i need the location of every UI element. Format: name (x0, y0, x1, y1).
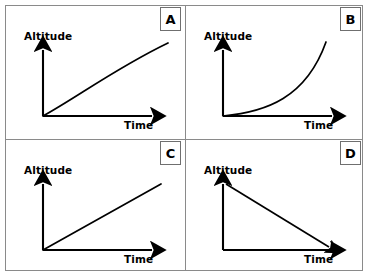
panel-c: Altitude Time C (6, 140, 186, 273)
panel-b: Altitude Time B (186, 6, 366, 139)
panel-c-data-line (43, 184, 161, 250)
panel-d-label: D (345, 147, 356, 160)
panel-a-data-curve (43, 43, 168, 116)
panel-a-label: A (165, 13, 175, 26)
panel-a-plot (6, 6, 186, 139)
panel-a-label-box: A (160, 7, 181, 31)
panel-b-label: B (346, 13, 356, 26)
panel-c-label: C (166, 147, 176, 160)
panel-d-label-box: D (340, 141, 361, 165)
panel-b-data-curve (223, 42, 326, 116)
panel-c-y-axis-label: Altitude (24, 164, 72, 176)
panel-b-y-axis-label: Altitude (204, 30, 252, 42)
panel-d-plot (186, 140, 366, 273)
panel-a-x-axis-label: Time (124, 119, 153, 131)
panel-a: Altitude Time A (6, 6, 186, 139)
panel-b-plot (186, 6, 366, 139)
panel-d-data-line (226, 184, 329, 247)
panel-c-label-box: C (160, 141, 181, 165)
panel-d-y-axis-label: Altitude (204, 164, 252, 176)
panel-a-y-axis-label: Altitude (24, 30, 72, 42)
panel-b-x-axis-label: Time (304, 119, 333, 131)
panel-c-x-axis-label: Time (124, 253, 153, 265)
altitude-time-figure: Altitude Time A Altitude Time B (0, 0, 370, 277)
panel-d: Altitude Time D (186, 140, 366, 273)
panel-c-plot (6, 140, 186, 273)
panel-d-x-axis-label: Time (304, 253, 333, 265)
panel-b-label-box: B (340, 7, 361, 31)
